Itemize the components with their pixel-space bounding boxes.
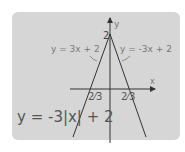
equation-label: y = -3|x| + 2 — [17, 110, 114, 125]
left-x-intercept-label: 2⁄3 — [88, 92, 102, 102]
x-axis-label: x — [150, 78, 155, 86]
y-axis-label: y — [114, 20, 119, 29]
right-pointer-arrow-icon — [122, 56, 130, 61]
right-x-intercept-label: 2⁄3 — [121, 92, 135, 102]
left-line-label: y = 3x + 2 — [51, 45, 100, 54]
left-pointer-arrow-icon — [90, 56, 97, 61]
graph-canvas — [0, 0, 185, 152]
right-line-label: y = -3x + 2 — [120, 45, 172, 54]
y-intercept-label: 2 — [103, 31, 109, 41]
